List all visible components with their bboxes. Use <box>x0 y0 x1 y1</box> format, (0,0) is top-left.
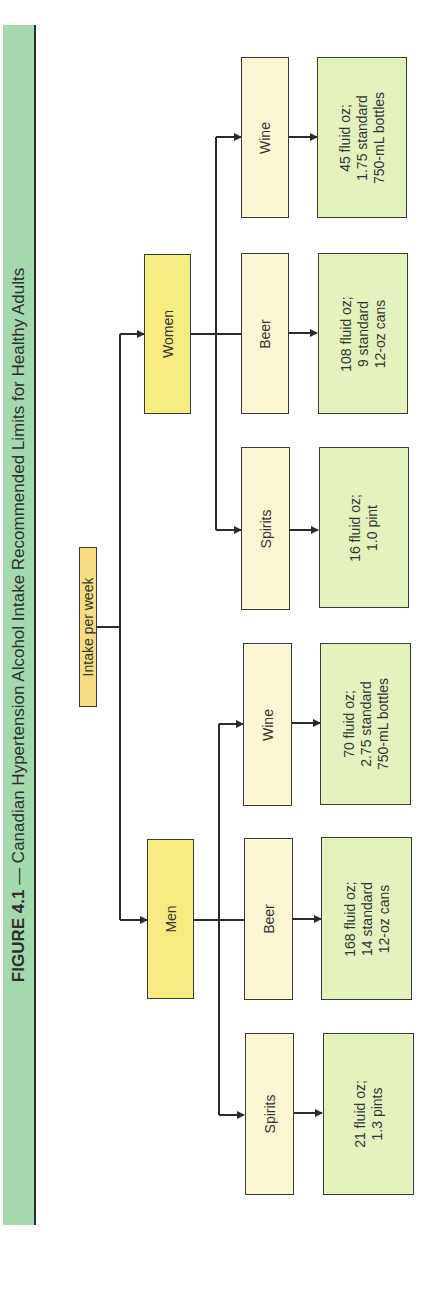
men-wine-amount: 70 fluid oz; 2.75 standard 750-mL bottle… <box>340 678 391 770</box>
amount-line: 14 standard <box>358 881 375 957</box>
men-beer-amount-box: 168 fluid oz; 14 standard 12-oz cans <box>321 837 412 1000</box>
amount-line: 108 fluid oz; <box>338 296 355 372</box>
men-beer-box: Beer <box>244 838 293 1000</box>
women-spirits-label: Spirits <box>257 509 274 548</box>
women-wine-amount-box: 45 fluid oz; 1.75 standard 750-mL bottle… <box>317 57 407 218</box>
men-spirits-amount: 21 fluid oz; 1.3 pints <box>352 1080 386 1148</box>
amount-line: 168 fluid oz; <box>341 881 358 957</box>
amount-line: 2.75 standard <box>357 678 374 770</box>
amount-line: 45 fluid oz; <box>337 91 354 183</box>
men-wine-label: Wine <box>259 709 276 741</box>
women-beer-label: Beer <box>257 319 274 349</box>
amount-line: 21 fluid oz; <box>352 1080 369 1148</box>
amount-line: 9 standard <box>355 296 372 372</box>
women-spirits-box: Spirits <box>241 447 290 610</box>
intake-per-week-label: Intake per week <box>80 578 97 677</box>
women-spirits-amount: 16 fluid oz; 1.0 pint <box>347 494 381 562</box>
women-box: Women <box>144 254 191 414</box>
men-wine-box: Wine <box>243 643 292 806</box>
men-spirits-box: Spirits <box>245 1033 294 1195</box>
women-beer-amount: 108 fluid oz; 9 standard 12-oz cans <box>338 296 389 372</box>
men-beer-amount: 168 fluid oz; 14 standard 12-oz cans <box>341 881 392 957</box>
women-spirits-amount-box: 16 fluid oz; 1.0 pint <box>319 447 409 608</box>
women-wine-label: Wine <box>257 122 274 154</box>
amount-line: 12-oz cans <box>375 881 392 957</box>
women-beer-box: Beer <box>241 253 289 414</box>
women-label: Women <box>159 310 176 358</box>
women-beer-amount-box: 108 fluid oz; 9 standard 12-oz cans <box>318 253 408 414</box>
amount-line: 1.0 pint <box>364 494 381 562</box>
amount-line: 1.75 standard <box>354 91 371 183</box>
amount-line: 750-mL bottles <box>374 678 391 770</box>
men-wine-amount-box: 70 fluid oz; 2.75 standard 750-mL bottle… <box>320 643 411 805</box>
men-box: Men <box>147 839 194 999</box>
amount-line: 16 fluid oz; <box>347 494 364 562</box>
men-beer-label: Beer <box>260 904 277 934</box>
amount-line: 70 fluid oz; <box>340 678 357 770</box>
men-spirits-amount-box: 21 fluid oz; 1.3 pints <box>323 1033 414 1195</box>
men-spirits-label: Spirits <box>261 1095 278 1134</box>
amount-line: 750-mL bottles <box>371 91 388 183</box>
amount-line: 12-oz cans <box>372 296 389 372</box>
amount-line: 1.3 pints <box>369 1080 386 1148</box>
intake-per-week-box: Intake per week <box>79 547 97 707</box>
men-label: Men <box>162 905 179 932</box>
women-wine-amount: 45 fluid oz; 1.75 standard 750-mL bottle… <box>337 91 388 183</box>
women-wine-box: Wine <box>241 57 289 218</box>
